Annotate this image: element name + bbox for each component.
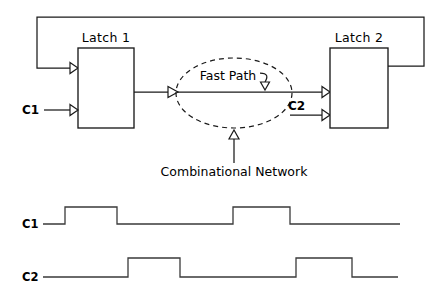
latch-2-label: Latch 2 <box>335 30 383 45</box>
timing-waveform-c2: C2 <box>22 258 398 284</box>
fast-path-label: Fast Path <box>200 68 257 83</box>
diagram-root: Latch 1 C1 Fast Path Combinational Netwo <box>0 0 446 297</box>
timing-waveform-c1: C1 <box>22 207 400 231</box>
fast-path-pointer-hook <box>260 73 267 82</box>
latch-2-block: Latch 2 <box>330 30 388 128</box>
latch-1-box <box>78 48 134 128</box>
fast-path-signal-line <box>134 87 330 98</box>
circuit-and-timing-diagram: Latch 1 C1 Fast Path Combinational Netwo <box>0 0 446 297</box>
combinational-network-label: Combinational Network <box>161 164 309 179</box>
c2-input-arrowhead <box>322 110 330 121</box>
latch-2-box <box>330 48 388 128</box>
combinational-network-callout: Combinational Network <box>161 130 309 179</box>
timing-c2-trace <box>43 258 398 277</box>
feedback-input-arrowhead <box>70 63 78 74</box>
timing-c2-label: C2 <box>22 270 38 284</box>
combinational-network-cloud: Fast Path <box>176 58 292 128</box>
c1-input-arrowhead <box>70 105 78 116</box>
c2-input-label: C2 <box>288 99 305 113</box>
timing-c1-label: C1 <box>22 217 38 231</box>
latch-1-label: Latch 1 <box>82 30 130 45</box>
timing-c1-trace <box>43 207 400 224</box>
c2-input-path: C2 <box>288 99 330 121</box>
c1-input-path: C1 <box>22 103 78 117</box>
c1-input-label: C1 <box>22 103 39 117</box>
combinational-callout-arrowhead <box>229 130 239 139</box>
latch-2-data-input-arrowhead <box>322 87 330 98</box>
fast-path-pointer-arrowhead <box>261 82 270 90</box>
latch-1-block: Latch 1 <box>78 30 134 128</box>
